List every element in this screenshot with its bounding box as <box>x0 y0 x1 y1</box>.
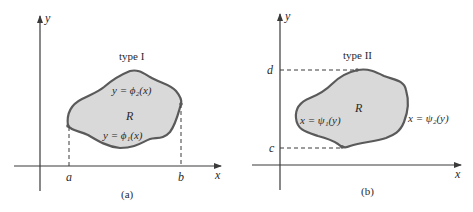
y-axis-label-a: y <box>44 11 51 25</box>
point-b <box>179 102 183 106</box>
panel-title-a: type I <box>119 50 145 62</box>
panel-a: y x type I y = ϕ₂(x) R y = ϕ₁(x) a b (a) <box>14 11 221 201</box>
left-curve-label: x = ψ₁(y) <box>299 114 341 127</box>
point-c <box>340 145 344 149</box>
bound-label-b: b <box>178 170 184 184</box>
bound-label-a: a <box>66 170 72 184</box>
panel-b: y x type II d c R x = ψ₁(y) x = ψ₂(y) (b… <box>252 9 461 198</box>
point-d <box>355 68 359 72</box>
point-a <box>66 124 70 128</box>
diagram-canvas: y x type I y = ϕ₂(x) R y = ϕ₁(x) a b (a)… <box>0 0 473 212</box>
right-curve-label: x = ψ₂(y) <box>407 112 449 125</box>
region-label-b: R <box>354 101 363 115</box>
bound-label-c: c <box>269 141 275 155</box>
y-axis-label-b: y <box>284 9 291 23</box>
region-label-a: R <box>125 109 134 123</box>
caption-b: (b) <box>361 185 374 198</box>
caption-a: (a) <box>121 188 134 201</box>
x-axis-label-b: x <box>454 167 461 181</box>
x-axis-label-a: x <box>214 168 221 182</box>
bound-label-d: d <box>267 63 274 77</box>
upper-curve-label: y = ϕ₂(x) <box>111 84 152 97</box>
region-r-b <box>296 69 408 147</box>
lower-curve-label: y = ϕ₁(x) <box>102 129 143 142</box>
panel-title-b: type II <box>343 49 372 61</box>
